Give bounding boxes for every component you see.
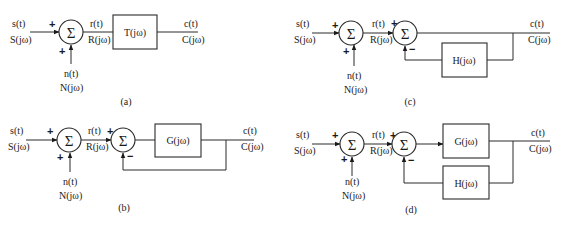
- sigma-icon: Σ: [67, 25, 76, 41]
- block-H-label: H(jω): [454, 178, 477, 190]
- noise-time-label: n(t): [63, 176, 77, 188]
- input-freq-label: S(jω): [10, 34, 32, 46]
- feedback-path: [487, 33, 513, 60]
- sum2-minus-sign: −: [408, 154, 414, 166]
- mid-freq-label: R(jω): [370, 145, 393, 157]
- output-time-label: c(t): [243, 125, 257, 137]
- output-freq-label: C(jω): [529, 143, 552, 155]
- noise-freq-label: N(jω): [344, 84, 367, 96]
- input-time-label: s(t): [10, 125, 23, 137]
- sigma-icon: Σ: [65, 133, 74, 149]
- sigma-icon: Σ: [401, 26, 410, 42]
- noise-freq-label: N(jω): [59, 190, 82, 202]
- input-freq-label: S(jω): [294, 145, 316, 157]
- mid-freq-label: R(jω): [88, 34, 111, 46]
- block-H-label: H(jω): [452, 55, 475, 67]
- panel-b: s(t) S(jω) + + Σ n(t) N(jω) r(t) R(jω) +…: [8, 124, 264, 214]
- caption-a: (a): [120, 96, 131, 108]
- input-time-label: s(t): [12, 18, 25, 30]
- sigma-icon: Σ: [119, 133, 128, 149]
- panel-a: s(t) S(jω) + + Σ n(t) N(jω) r(t) R(jω) T…: [10, 15, 205, 108]
- output-freq-label: C(jω): [241, 141, 264, 153]
- sigma-icon: Σ: [400, 137, 409, 153]
- noise-freq-label: N(jω): [60, 82, 83, 94]
- sum1-plus-sign: +: [49, 18, 55, 30]
- sigma-icon: Σ: [348, 137, 357, 153]
- block-G-label: G(jω): [166, 135, 189, 147]
- block-T-label: T(jω): [124, 27, 146, 39]
- block-G-label: G(jω): [454, 136, 477, 148]
- input-freq-label: S(jω): [294, 34, 316, 46]
- output-time-label: c(t): [530, 18, 544, 30]
- panel-d: s(t) S(jω) + + Σ n(t) N(jω) r(t) R(jω) +…: [294, 124, 552, 216]
- panel-c: s(t) S(jω) + + Σ n(t) N(jω) r(t) R(jω) +…: [294, 17, 551, 108]
- input-time-label: s(t): [296, 129, 309, 141]
- feedback-path: [489, 141, 513, 183]
- mid-time-label: r(t): [88, 125, 101, 137]
- caption-d: (d): [405, 204, 417, 216]
- mid-freq-label: R(jω): [86, 141, 109, 153]
- mid-time-label: r(t): [90, 18, 103, 30]
- mid-freq-label: R(jω): [370, 34, 393, 46]
- sum1-plus-sign: +: [47, 125, 53, 137]
- caption-b: (b): [118, 202, 130, 214]
- output-freq-label: C(jω): [182, 34, 205, 46]
- output-time-label: c(t): [531, 127, 545, 139]
- block-diagram-figure: s(t) S(jω) + + Σ n(t) N(jω) r(t) R(jω) T…: [0, 0, 562, 227]
- sigma-icon: Σ: [347, 26, 356, 42]
- sum1-plus-sign: +: [332, 129, 338, 141]
- sum2-minus-sign: −: [409, 43, 415, 55]
- noise-time-label: n(t): [347, 70, 361, 82]
- sum1-plus-sign: +: [332, 19, 338, 31]
- noise-time-label: n(t): [64, 68, 78, 80]
- sum1-plus-sign-bottom: +: [59, 45, 65, 57]
- output-freq-label: C(jω): [528, 34, 551, 46]
- caption-c: (c): [404, 96, 415, 108]
- output-time-label: c(t): [184, 18, 198, 30]
- noise-freq-label: N(jω): [342, 190, 365, 202]
- noise-time-label: n(t): [345, 176, 359, 188]
- mid-time-label: r(t): [372, 129, 385, 141]
- sum2-minus-sign: −: [127, 150, 133, 162]
- sum1-plus-sign-bottom: +: [57, 151, 63, 163]
- input-freq-label: S(jω): [8, 141, 30, 153]
- sum1-plus-sign-bottom: +: [343, 45, 349, 57]
- input-time-label: s(t): [296, 18, 309, 30]
- mid-time-label: r(t): [372, 18, 385, 30]
